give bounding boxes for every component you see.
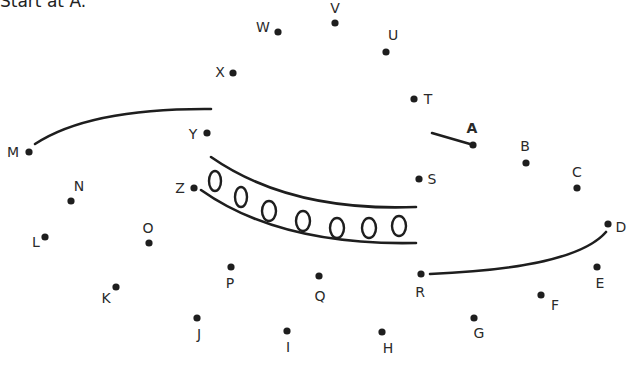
dot-label: Q <box>314 288 325 304</box>
dot-label: V <box>330 0 340 16</box>
dot-i[interactable]: I <box>283 327 290 355</box>
band-oval <box>296 211 310 231</box>
r-to-d-curve <box>430 232 606 274</box>
dot-m[interactable]: M <box>7 144 33 160</box>
dot-marker[interactable] <box>41 233 48 240</box>
band-oval <box>235 187 247 207</box>
dot-v[interactable]: V <box>330 0 340 27</box>
dot-marker[interactable] <box>470 314 477 321</box>
band-ovals <box>209 171 406 238</box>
dot-marker[interactable] <box>378 328 385 335</box>
dot-n[interactable]: N <box>67 178 84 205</box>
dot-label: E <box>596 275 605 291</box>
dot-label: P <box>226 275 234 291</box>
dot-label: M <box>7 144 19 160</box>
dot-label: G <box>474 325 485 341</box>
dot-label: S <box>428 171 437 187</box>
dot-u[interactable]: U <box>382 27 398 56</box>
dot-label: T <box>423 91 433 107</box>
dot-marker[interactable] <box>203 129 210 136</box>
dot-marker[interactable] <box>537 291 544 298</box>
dot-label: I <box>286 339 290 355</box>
dot-y[interactable]: Y <box>188 126 211 142</box>
dot-b[interactable]: B <box>520 138 530 167</box>
dot-z[interactable]: Z <box>175 180 197 196</box>
dot-marker[interactable] <box>190 184 197 191</box>
dot-k[interactable]: K <box>101 283 119 306</box>
dot-q[interactable]: Q <box>314 272 325 304</box>
dot-label: C <box>572 164 582 180</box>
dot-r[interactable]: R <box>415 270 425 300</box>
dot-o[interactable]: O <box>142 220 153 247</box>
dot-s[interactable]: S <box>415 171 436 187</box>
dot-l[interactable]: L <box>32 233 49 250</box>
a-lead-line <box>432 133 470 144</box>
dot-marker[interactable] <box>573 184 580 191</box>
dot-label: Y <box>188 126 198 142</box>
dot-marker[interactable] <box>283 327 290 334</box>
dot-label: N <box>74 178 84 194</box>
dot-marker[interactable] <box>227 263 234 270</box>
dot-marker[interactable] <box>274 28 281 35</box>
dot-marker[interactable] <box>417 270 424 277</box>
dot-marker[interactable] <box>331 19 338 26</box>
dot-e[interactable]: E <box>593 263 604 291</box>
dot-label: B <box>520 138 530 154</box>
dot-h[interactable]: H <box>378 328 393 356</box>
worksheet: Start at A. ABCDEFGHIJKLMNOPQRSTUVWXYZ <box>0 0 634 372</box>
dot-marker[interactable] <box>382 48 389 55</box>
dot-marker[interactable] <box>410 95 417 102</box>
band-oval <box>392 216 406 236</box>
dot-marker[interactable] <box>25 148 32 155</box>
dot-label: W <box>256 19 270 35</box>
dot-label: R <box>415 284 425 300</box>
dot-marker[interactable] <box>112 283 119 290</box>
band-upper-curve <box>211 157 416 207</box>
dot-marker[interactable] <box>145 239 152 246</box>
dot-label: X <box>215 64 225 80</box>
band-oval <box>330 218 344 238</box>
dot-g[interactable]: G <box>470 314 484 341</box>
dot-d[interactable]: D <box>604 219 626 235</box>
dot-w[interactable]: W <box>256 19 282 36</box>
dot-marker[interactable] <box>315 272 322 279</box>
dot-label: O <box>142 220 153 236</box>
dot-label: K <box>101 290 111 306</box>
dot-label: D <box>616 219 627 235</box>
m-to-y-curve <box>35 109 211 144</box>
dot-f[interactable]: F <box>537 291 559 313</box>
dot-label: H <box>383 340 394 356</box>
dot-label: L <box>32 234 40 250</box>
dot-label: J <box>196 326 201 342</box>
pre-drawn-strokes <box>35 109 606 274</box>
dot-j[interactable]: J <box>193 314 201 342</box>
dot-marker[interactable] <box>522 159 529 166</box>
dot-marker[interactable] <box>229 69 236 76</box>
dot-p[interactable]: P <box>226 263 235 291</box>
dot-marker[interactable] <box>193 314 200 321</box>
dot-c[interactable]: C <box>572 164 582 192</box>
band-oval <box>262 201 276 221</box>
dot-t[interactable]: T <box>410 91 432 107</box>
dot-label: A <box>467 120 478 136</box>
dot-marker[interactable] <box>415 175 422 182</box>
dot-marker[interactable] <box>67 197 74 204</box>
band-oval <box>209 171 221 191</box>
dots: ABCDEFGHIJKLMNOPQRSTUVWXYZ <box>7 0 626 356</box>
dot-marker[interactable] <box>593 263 600 270</box>
dot-marker[interactable] <box>469 141 476 148</box>
dot-label: F <box>551 297 559 313</box>
dot-marker[interactable] <box>604 220 611 227</box>
dot-label: U <box>388 27 398 43</box>
dot-x[interactable]: X <box>215 64 236 80</box>
dot-label: Z <box>175 180 185 196</box>
dot-to-dot-puzzle: ABCDEFGHIJKLMNOPQRSTUVWXYZ <box>0 0 634 372</box>
band-oval <box>362 218 376 238</box>
